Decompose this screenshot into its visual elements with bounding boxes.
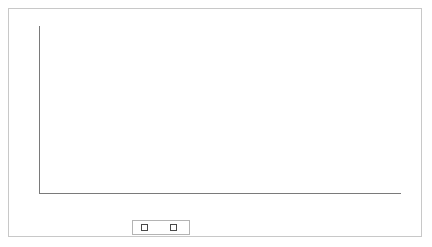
chart-figure [8,8,422,237]
legend-entry-other [141,224,152,231]
legend-swatch-remaining-full-time-employed [170,224,177,231]
x-axis-tick-labels [39,199,401,213]
bar-series-group [40,26,401,193]
legend-entry-remaining-full-time-employed [170,224,181,231]
chart-legend [132,220,190,235]
plot-area [39,26,401,194]
legend-swatch-other [141,224,148,231]
